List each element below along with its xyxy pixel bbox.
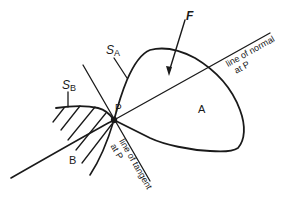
surface-b-label: SB (62, 78, 76, 93)
normal-line (114, 33, 270, 120)
surface-a-leader (114, 58, 127, 78)
force-label: F (186, 9, 194, 23)
body-b-label: B (69, 154, 76, 166)
body-a-outline (114, 48, 244, 151)
tangent-line-caption: line of tangent at P (109, 137, 155, 196)
force-arrowhead-icon (166, 66, 172, 76)
contact-point (111, 117, 117, 123)
svg-text:line of tangent: line of tangent (117, 137, 154, 191)
contact-diagram: F SA SB P A B line of normal at P line o… (0, 0, 302, 219)
body-a-label: A (198, 103, 206, 115)
surface-a-label: SA (106, 43, 120, 58)
svg-text:line of normal: line of normal (224, 34, 276, 69)
force-arrow-shaft (169, 20, 185, 72)
point-label: P (115, 103, 122, 114)
normal-line-caption: line of normal at P (224, 34, 281, 78)
